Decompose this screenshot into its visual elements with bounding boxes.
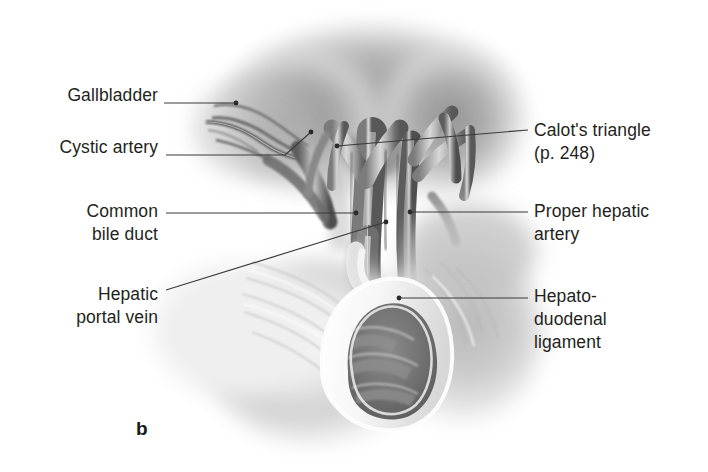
leader-dot-proper-hepatic-artery xyxy=(408,210,413,215)
label-hepatoduodenal-ligament: Hepato- duodenal ligament xyxy=(534,285,704,353)
leader-dot-calots-triangle xyxy=(335,144,340,149)
leader-dot-hepatic-portal-vein xyxy=(384,220,389,225)
label-cystic-artery: Cystic artery xyxy=(36,136,158,159)
figure-panel: Gallbladder Cystic artery Common bile du… xyxy=(0,0,708,472)
duodenum xyxy=(322,278,453,430)
figure-part-label: b xyxy=(136,418,148,440)
leader-dot-hepatoduodenal-ligament xyxy=(397,296,402,301)
label-hepatic-portal-vein: Hepatic portal vein xyxy=(48,283,158,329)
label-calots-triangle: Calot's triangle (p. 248) xyxy=(534,119,704,165)
leader-dot-common-bile-duct xyxy=(354,211,359,216)
label-gallbladder: Gallbladder xyxy=(46,84,158,107)
leader-dot-gallbladder xyxy=(234,101,239,106)
label-common-bile-duct: Common bile duct xyxy=(58,200,158,246)
label-proper-hepatic-artery: Proper hepatic artery xyxy=(534,200,704,246)
leader-dot-cystic-artery xyxy=(309,130,314,135)
